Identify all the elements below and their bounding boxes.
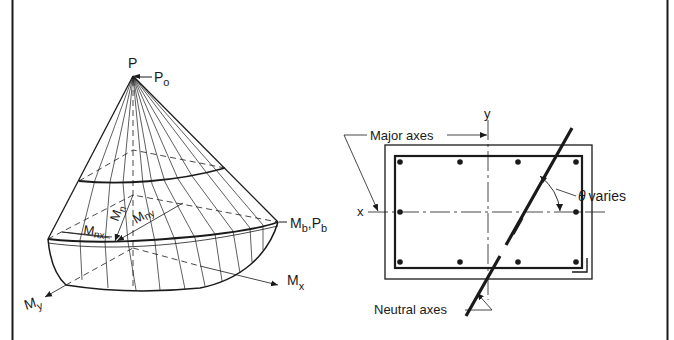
apex-label: P [128, 55, 137, 71]
mnx-label: Mnx [82, 222, 105, 241]
major-axes-label: Major axes [370, 128, 434, 143]
mny-label: Mny [130, 203, 157, 228]
diagram-canvas: P Po Mb,Pb Mx My Mn Mnx Mny [0, 0, 674, 340]
x-axis-label: x [357, 204, 364, 219]
rebar [573, 209, 579, 215]
mx-label: Mx [287, 272, 305, 292]
rebar [573, 159, 579, 165]
neutral-axes-label: Neutral axes [374, 302, 447, 317]
rebar [515, 259, 521, 265]
rebar [397, 259, 403, 265]
mb-pb-label: Mb,Pb [290, 215, 327, 234]
theta-varies-label: θvaries [578, 188, 626, 204]
column-section [344, 120, 605, 316]
rebar [397, 209, 403, 215]
rebar [457, 259, 463, 265]
rebar [515, 159, 521, 165]
po-label: Po [154, 69, 169, 88]
my-label: My [22, 292, 45, 316]
y-axis-label: y [484, 106, 491, 121]
rebar [397, 159, 403, 165]
interaction-surface [45, 74, 287, 297]
rebar [457, 159, 463, 165]
rebar [573, 259, 579, 265]
